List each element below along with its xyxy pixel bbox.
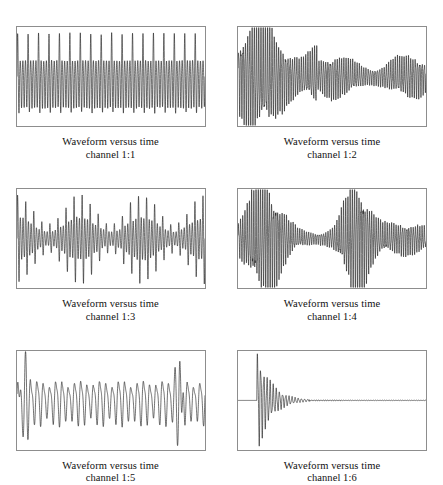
waveform-plot-channel-1-5 — [17, 351, 205, 450]
caption-line-2: channel 1:4 — [284, 311, 380, 324]
waveform-trace-channel-1-2 — [238, 28, 426, 126]
plot-frame-channel-1-4 — [237, 188, 427, 289]
plot-frame-channel-1-5 — [16, 350, 206, 451]
waveform-plot-channel-1-1 — [17, 27, 205, 126]
waveform-plot-channel-1-3 — [17, 189, 205, 288]
caption-line-2: channel 1:1 — [62, 149, 158, 162]
waveform-plot-channel-1-6 — [238, 351, 426, 450]
waveform-trace-channel-1-5 — [17, 352, 205, 446]
waveform-trace-channel-1-1 — [17, 33, 205, 114]
caption-line-1: Waveform versus time — [284, 460, 380, 473]
caption-line-1: Waveform versus time — [284, 298, 380, 311]
caption-channel-1-5: Waveform versus time channel 1:5 — [62, 460, 158, 485]
caption-channel-1-6: Waveform versus time channel 1:6 — [284, 460, 380, 485]
waveform-trace-channel-1-6 — [238, 354, 426, 446]
plot-frame-channel-1-6 — [237, 350, 427, 451]
panel-channel-1-5: Waveform versus time channel 1:5 — [0, 324, 221, 485]
panel-channel-1-2: Waveform versus time channel 1:2 — [221, 0, 443, 162]
plot-frame-channel-1-2 — [237, 26, 427, 127]
caption-line-2: channel 1:3 — [62, 311, 158, 324]
plot-frame-channel-1-3 — [16, 188, 206, 289]
caption-line-1: Waveform versus time — [62, 136, 158, 149]
caption-line-1: Waveform versus time — [62, 460, 158, 473]
figure-root: Waveform versus time channel 1:1 Wavefor… — [0, 0, 443, 485]
plot-frame-channel-1-1 — [16, 26, 206, 127]
panel-grid: Waveform versus time channel 1:1 Wavefor… — [0, 0, 443, 485]
waveform-plot-channel-1-4 — [238, 189, 426, 288]
panel-channel-1-1: Waveform versus time channel 1:1 — [0, 0, 221, 162]
caption-channel-1-3: Waveform versus time channel 1:3 — [62, 298, 158, 323]
caption-channel-1-2: Waveform versus time channel 1:2 — [284, 136, 380, 161]
caption-line-2: channel 1:2 — [284, 149, 380, 162]
waveform-trace-channel-1-3 — [17, 195, 205, 284]
caption-line-2: channel 1:6 — [284, 472, 380, 485]
caption-channel-1-4: Waveform versus time channel 1:4 — [284, 298, 380, 323]
waveform-trace-channel-1-4 — [238, 190, 426, 288]
caption-line-1: Waveform versus time — [284, 136, 380, 149]
waveform-plot-channel-1-2 — [238, 27, 426, 126]
caption-channel-1-1: Waveform versus time channel 1:1 — [62, 136, 158, 161]
panel-channel-1-6: Waveform versus time channel 1:6 — [221, 324, 443, 485]
panel-channel-1-3: Waveform versus time channel 1:3 — [0, 162, 221, 324]
caption-line-1: Waveform versus time — [62, 298, 158, 311]
panel-channel-1-4: Waveform versus time channel 1:4 — [221, 162, 443, 324]
caption-line-2: channel 1:5 — [62, 472, 158, 485]
